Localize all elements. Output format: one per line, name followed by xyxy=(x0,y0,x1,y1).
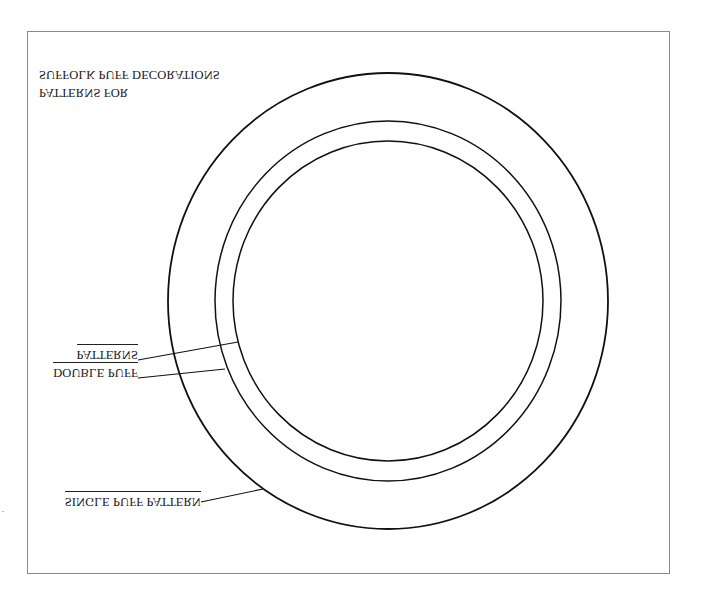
title-line-2: SUFFOLK PUFF DECORATIONS xyxy=(39,66,220,84)
diagram-title: PATTERNS FOR SUFFOLK PUFF DECORATIONS xyxy=(39,66,220,102)
double-puff-label-line-1: DOUBLE PUFF xyxy=(53,362,138,381)
single-puff-label-text: SINGLE PUFF PATTERN xyxy=(65,491,201,510)
leader-line-single-puff xyxy=(201,489,263,502)
single-puff-label: SINGLE PUFF PATTERN xyxy=(40,492,201,510)
inner-circle-double-puff xyxy=(233,141,543,461)
leader-line-double-puff xyxy=(138,369,225,378)
middle-circle-double-puff xyxy=(215,121,561,481)
title-line-1: PATTERNS FOR xyxy=(39,84,220,102)
double-puff-label: DOUBLE PUFF PATTERNS xyxy=(44,345,138,381)
scan-speck xyxy=(2,511,4,512)
double-puff-label-line-2: PATTERNS xyxy=(77,344,138,363)
